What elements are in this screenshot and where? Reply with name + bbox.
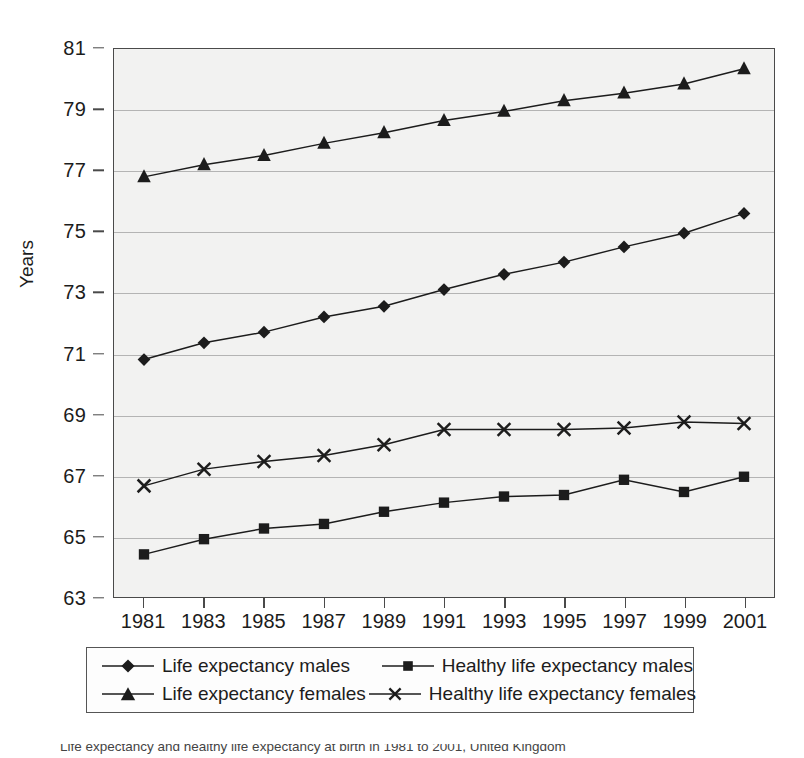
data-point-marker — [198, 336, 211, 349]
data-point-marker — [258, 326, 271, 339]
data-point-marker — [259, 523, 269, 533]
y-tick-label: 75 — [63, 220, 86, 243]
x-tick-label: 1999 — [662, 610, 707, 633]
legend-label: Healthy life expectancy females — [429, 683, 696, 705]
data-point-marker — [738, 207, 751, 220]
data-point-marker — [559, 490, 569, 500]
y-tick-label: 77 — [63, 159, 86, 182]
data-point-marker — [498, 268, 511, 281]
triangle-marker-icon — [101, 684, 155, 704]
x-tick-label: 1997 — [602, 610, 647, 633]
y-tick-mark — [93, 475, 104, 476]
x-tick-mark — [685, 598, 686, 608]
y-tick-mark — [93, 108, 104, 109]
legend-item-healthy-life-expectancy-males: Healthy life expectancy males — [379, 655, 693, 677]
data-point-marker — [199, 534, 209, 544]
x-tick-mark — [564, 598, 565, 608]
x-tick-label: 1989 — [362, 610, 407, 633]
data-point-marker — [139, 549, 149, 559]
data-point-marker — [319, 519, 329, 529]
data-point-marker — [679, 487, 689, 497]
x-tick-label: 1985 — [241, 610, 286, 633]
y-tick-mark — [93, 170, 104, 171]
figure-caption: Life expectancy and healthy life expecta… — [60, 744, 566, 754]
data-point-marker — [558, 256, 571, 269]
square-marker-icon — [381, 656, 435, 676]
data-point-marker — [619, 475, 629, 485]
data-point-marker — [138, 353, 151, 366]
legend-item-life-expectancy-males: Life expectancy males — [87, 655, 379, 677]
data-point-marker — [138, 480, 151, 493]
legend-row-1: Life expectancy males Healthy life expec… — [87, 652, 693, 680]
legend-row-2: Life expectancy females Healthy life exp… — [87, 680, 693, 708]
chart-legend: Life expectancy males Healthy life expec… — [86, 647, 694, 713]
figure-caption-strip: Life expectancy and healthy life expecta… — [0, 744, 804, 758]
y-tick-mark — [93, 47, 104, 48]
series-layer — [114, 49, 774, 597]
data-point-marker — [618, 241, 631, 254]
x-tick-label: 1991 — [422, 610, 467, 633]
x-tick-mark — [444, 598, 445, 608]
y-tick-mark — [93, 414, 104, 415]
legend-label: Life expectancy females — [162, 683, 366, 705]
data-point-marker — [499, 491, 509, 501]
x-tick-label: 2001 — [723, 610, 768, 633]
legend-item-life-expectancy-females: Life expectancy females — [87, 683, 366, 705]
cross-marker-icon — [368, 684, 422, 704]
x-tick-label: 1987 — [301, 610, 346, 633]
y-tick-label: 69 — [63, 403, 86, 426]
data-point-marker — [737, 61, 751, 74]
y-tick-label: 73 — [63, 281, 86, 304]
y-tick-mark — [93, 292, 104, 293]
y-tick-label: 71 — [63, 342, 86, 365]
y-axis: 81797775737169676563 — [0, 48, 104, 598]
y-tick-label: 81 — [63, 37, 86, 60]
diamond-marker-icon — [101, 656, 155, 676]
series-2 — [137, 61, 751, 182]
life-expectancy-line-chart: Years 81797775737169676563 1981198319851… — [0, 0, 804, 758]
x-tick-label: 1981 — [121, 610, 166, 633]
data-point-marker — [678, 227, 691, 240]
data-point-marker — [739, 472, 749, 482]
y-tick-mark — [93, 536, 104, 537]
x-tick-mark — [504, 598, 505, 608]
y-tick-label: 79 — [63, 98, 86, 121]
data-point-marker — [318, 311, 331, 324]
plot-area — [113, 48, 775, 598]
x-tick-label: 1983 — [181, 610, 226, 633]
x-tick-mark — [324, 598, 325, 608]
x-tick-mark — [384, 598, 385, 608]
series-line — [144, 422, 744, 486]
x-tick-mark — [143, 598, 144, 608]
data-point-marker — [379, 507, 389, 517]
y-tick-label: 63 — [63, 587, 86, 610]
data-point-marker — [378, 300, 391, 313]
series-3 — [138, 416, 751, 493]
legend-label: Life expectancy males — [162, 655, 350, 677]
y-tick-label: 65 — [63, 525, 86, 548]
legend-label: Healthy life expectancy males — [442, 655, 693, 677]
x-tick-mark — [745, 598, 746, 608]
y-tick-mark — [93, 231, 104, 232]
y-tick-label: 67 — [63, 464, 86, 487]
data-point-marker — [439, 497, 449, 507]
x-tick-mark — [203, 598, 204, 608]
x-tick-mark — [625, 598, 626, 608]
data-point-marker — [378, 438, 391, 451]
x-tick-label: 1995 — [542, 610, 587, 633]
legend-item-healthy-life-expectancy-females: Healthy life expectancy females — [366, 683, 696, 705]
x-tick-label: 1993 — [482, 610, 527, 633]
x-axis: 1981198319851987198919911993199519971999… — [113, 598, 775, 642]
y-tick-mark — [93, 597, 104, 598]
series-line — [144, 477, 744, 555]
series-1 — [139, 472, 749, 560]
y-tick-mark — [93, 353, 104, 354]
series-0 — [138, 207, 751, 366]
x-tick-mark — [263, 598, 264, 608]
data-point-marker — [438, 283, 451, 296]
